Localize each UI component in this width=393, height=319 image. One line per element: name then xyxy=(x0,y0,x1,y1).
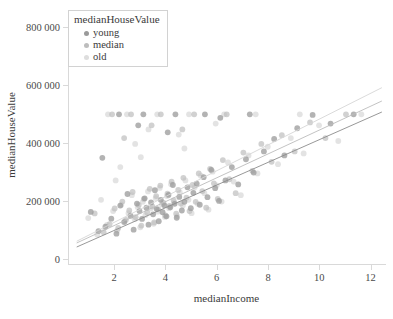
data-point xyxy=(157,183,163,189)
data-point xyxy=(186,111,192,117)
legend-item-label: young xyxy=(93,27,119,39)
x-axis-title: medianIncome xyxy=(60,292,393,304)
data-point xyxy=(134,201,140,207)
x-tick-label: 2 xyxy=(112,272,117,283)
x-tick-mark xyxy=(268,265,269,270)
data-point xyxy=(205,194,211,200)
trendline-median xyxy=(77,101,382,243)
data-point xyxy=(316,122,322,128)
data-point xyxy=(138,154,144,160)
legend-item-young[interactable]: young xyxy=(74,27,160,39)
x-tick-mark xyxy=(114,265,115,270)
data-point xyxy=(170,182,176,188)
data-point xyxy=(288,135,294,141)
data-point xyxy=(108,216,114,222)
data-point xyxy=(98,197,104,203)
data-point xyxy=(125,191,131,197)
y-tick-mark xyxy=(63,259,68,260)
data-point xyxy=(130,189,136,195)
x-axis-tick-labels: 24681012 xyxy=(0,272,393,288)
data-point xyxy=(301,151,307,157)
data-point xyxy=(135,122,141,128)
legend-marker-icon xyxy=(84,55,89,60)
data-point xyxy=(202,111,208,117)
data-point xyxy=(174,215,180,221)
data-point xyxy=(146,222,152,228)
data-point xyxy=(310,112,316,118)
data-point xyxy=(173,111,179,117)
data-point xyxy=(164,213,170,219)
data-point xyxy=(233,190,239,196)
legend-item-old[interactable]: old xyxy=(74,51,160,63)
data-point xyxy=(113,177,119,183)
x-tick-label: 6 xyxy=(214,272,219,283)
data-point xyxy=(258,141,264,147)
data-point xyxy=(297,111,303,117)
legend-item-median[interactable]: median xyxy=(74,39,160,51)
data-point xyxy=(117,203,123,209)
data-point xyxy=(217,115,223,121)
legend-item-label: old xyxy=(93,51,106,63)
y-tick-mark xyxy=(63,143,68,144)
y-tick-label: 400 000 xyxy=(4,138,60,149)
y-tick-label: 0 xyxy=(4,254,60,265)
data-point xyxy=(275,161,281,167)
legend-marker-icon xyxy=(84,43,89,48)
data-point xyxy=(196,171,202,177)
data-point xyxy=(116,111,122,117)
data-point xyxy=(261,149,267,155)
data-point xyxy=(247,111,253,117)
data-point xyxy=(191,111,197,117)
data-point xyxy=(156,218,162,224)
data-point xyxy=(99,155,105,161)
data-point xyxy=(224,111,230,117)
data-point xyxy=(253,111,259,117)
y-tick-mark xyxy=(63,27,68,28)
data-point xyxy=(238,192,244,198)
trendline-old xyxy=(77,88,382,242)
data-point xyxy=(197,202,203,208)
data-point xyxy=(140,111,146,117)
data-point xyxy=(153,193,159,199)
y-tick-mark xyxy=(63,85,68,86)
data-point xyxy=(128,111,134,117)
data-point xyxy=(152,187,158,193)
data-point xyxy=(251,170,257,176)
data-point xyxy=(229,164,235,170)
y-tick-label: 200 000 xyxy=(4,196,60,207)
data-point xyxy=(176,132,182,138)
data-point xyxy=(112,206,118,212)
legend-title: medianHouseValue xyxy=(74,13,160,26)
data-point xyxy=(109,111,115,117)
data-point xyxy=(126,208,132,214)
data-point xyxy=(203,205,209,211)
x-tick-mark xyxy=(319,265,320,270)
data-point xyxy=(179,208,185,214)
data-point xyxy=(240,150,246,156)
data-point xyxy=(335,138,341,144)
data-point xyxy=(179,126,185,132)
x-tick-label: 4 xyxy=(163,272,168,283)
data-point xyxy=(85,215,91,221)
data-point xyxy=(235,182,241,188)
data-point xyxy=(131,227,137,233)
scatter-chart: medianHouseValue 0200 000400 000600 0008… xyxy=(0,0,393,319)
data-point xyxy=(216,198,222,204)
data-point xyxy=(220,157,226,163)
data-point xyxy=(188,205,194,211)
data-point xyxy=(117,164,123,170)
data-point xyxy=(149,122,155,128)
data-point xyxy=(88,209,94,215)
y-tick-label: 600 000 xyxy=(4,80,60,91)
x-tick-label: 10 xyxy=(314,272,325,283)
x-tick-mark xyxy=(165,265,166,270)
data-point xyxy=(121,135,127,141)
legend-entries: youngmedianold xyxy=(74,27,160,63)
data-point xyxy=(132,141,138,147)
x-tick-label: 8 xyxy=(265,272,270,283)
y-tick-label: 800 000 xyxy=(4,22,60,33)
x-tick-mark xyxy=(217,265,218,270)
legend-marker-icon xyxy=(84,31,89,36)
series-points-young xyxy=(88,111,357,236)
data-point xyxy=(147,186,153,192)
